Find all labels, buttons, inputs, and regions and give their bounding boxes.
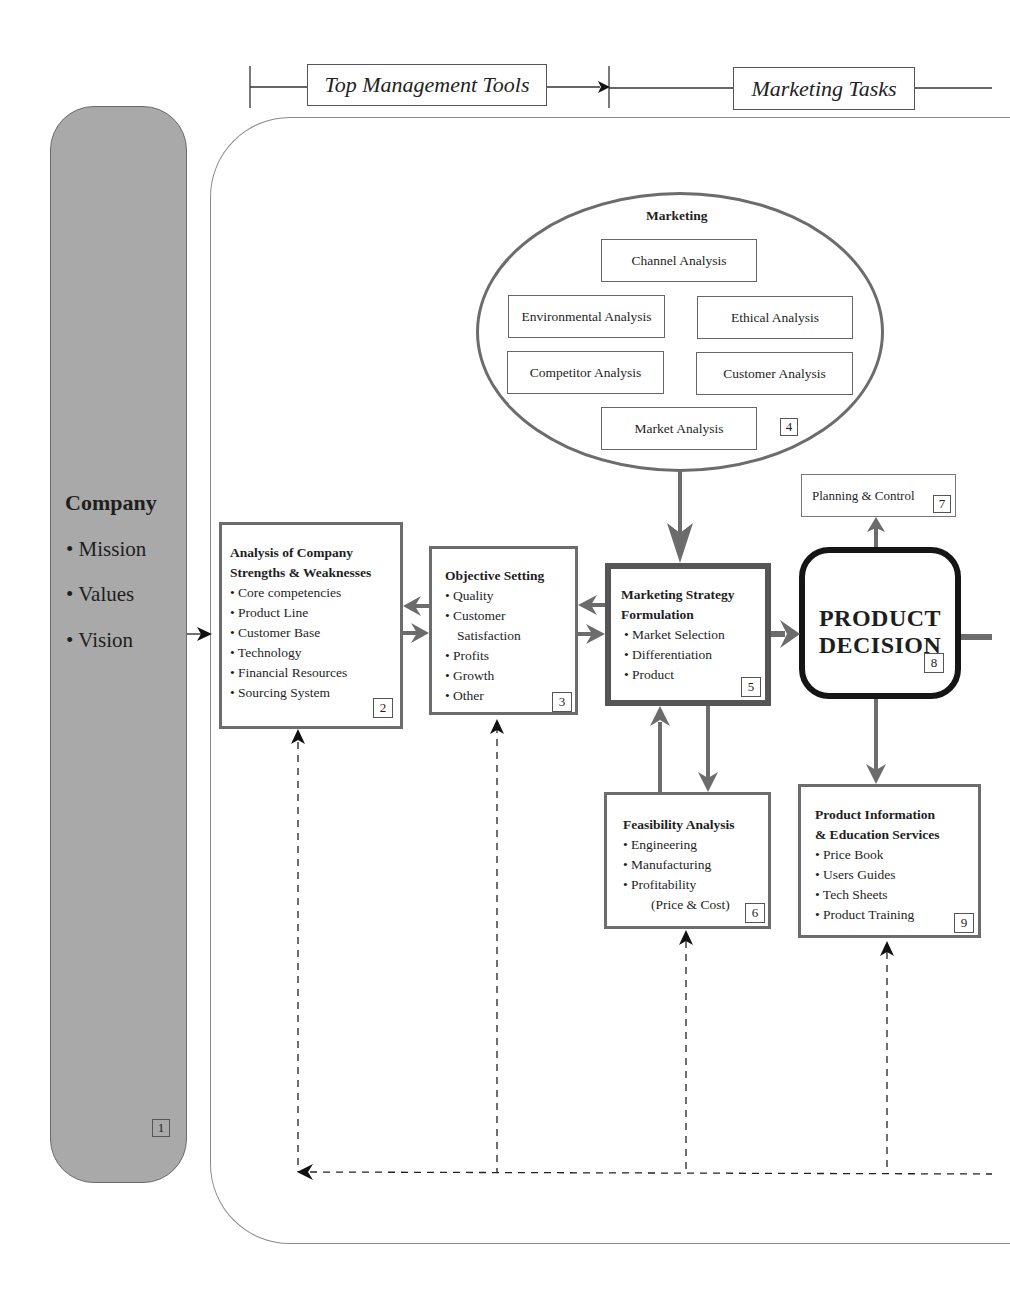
analysis-title-line2: Strengths & Weaknesses — [230, 563, 400, 583]
analysis-item: • Core competencies — [230, 583, 400, 603]
marketing-title: Marketing — [646, 208, 708, 224]
analysis-title-line1: Analysis of Company — [230, 543, 400, 563]
market-analysis-box: Market Analysis — [601, 407, 757, 450]
stage-label-top-management-tools: Top Management Tools — [307, 64, 547, 106]
strategy-item: • Market Selection — [621, 625, 765, 645]
info-item: • Users Guides — [815, 865, 978, 885]
analysis-item: • Customer Base — [230, 623, 400, 643]
strategy-item: • Differentiation — [621, 645, 765, 665]
strategy-title-line2: Formulation — [621, 605, 765, 625]
feasibility-item: • Engineering — [623, 835, 768, 855]
product-decision-box: PRODUCT DECISION 8 — [799, 547, 961, 699]
decision-line1: PRODUCT — [805, 605, 955, 632]
info-item: • Tech Sheets — [815, 885, 978, 905]
company-item-mission: • Mission — [66, 537, 146, 562]
company-item-values: • Values — [66, 582, 134, 607]
stage-label-marketing-tasks: Marketing Tasks — [733, 67, 915, 110]
step-number-4: 4 — [780, 418, 798, 436]
objective-setting-box: Objective Setting • Quality • Customer S… — [429, 546, 578, 715]
company-title: Company — [65, 490, 157, 516]
objective-item: • Growth — [445, 666, 575, 686]
product-information-box: Product Information & Education Services… — [798, 784, 981, 938]
info-item: • Price Book — [815, 845, 978, 865]
channel-analysis-box: Channel Analysis — [601, 239, 757, 282]
feasibility-item: • Manufacturing — [623, 855, 768, 875]
info-title-line1: Product Information — [815, 805, 978, 825]
step-number-2: 2 — [373, 698, 393, 718]
objective-item: • Profits — [445, 646, 575, 666]
planning-label: Planning & Control — [812, 488, 915, 503]
step-number-6: 6 — [745, 903, 765, 923]
objective-item: • Quality — [445, 586, 575, 606]
step-number-3: 3 — [552, 692, 572, 712]
step-number-7: 7 — [933, 495, 951, 513]
step-number-9: 9 — [954, 913, 974, 933]
company-item-vision: • Vision — [66, 628, 133, 653]
step-number-8: 8 — [924, 653, 944, 673]
company-to-analysis-arrow — [187, 627, 212, 641]
step-number-5: 5 — [741, 677, 761, 697]
info-title-line2: & Education Services — [815, 825, 978, 845]
step-number-1: 1 — [152, 1119, 170, 1137]
analysis-item: • Technology — [230, 643, 400, 663]
feasibility-item: • Profitability — [623, 875, 768, 895]
ethical-analysis-box: Ethical Analysis — [697, 296, 853, 339]
analysis-item: • Financial Resources — [230, 663, 400, 683]
objective-item: • Customer — [445, 606, 575, 626]
competitor-analysis-box: Competitor Analysis — [507, 351, 664, 394]
analysis-item: • Product Line — [230, 603, 400, 623]
marketing-strategy-box: Marketing Strategy Formulation • Market … — [605, 563, 771, 706]
analysis-strengths-weaknesses-box: Analysis of Company Strengths & Weakness… — [219, 522, 403, 729]
strategy-title-line1: Marketing Strategy — [621, 585, 765, 605]
feasibility-analysis-box: Feasibility Analysis • Engineering • Man… — [604, 792, 771, 929]
customer-analysis-box: Customer Analysis — [696, 352, 853, 395]
objective-item: Satisfaction — [445, 626, 575, 646]
feasibility-title: Feasibility Analysis — [623, 815, 768, 835]
environmental-analysis-box: Environmental Analysis — [508, 295, 665, 338]
objective-title: Objective Setting — [445, 566, 575, 586]
